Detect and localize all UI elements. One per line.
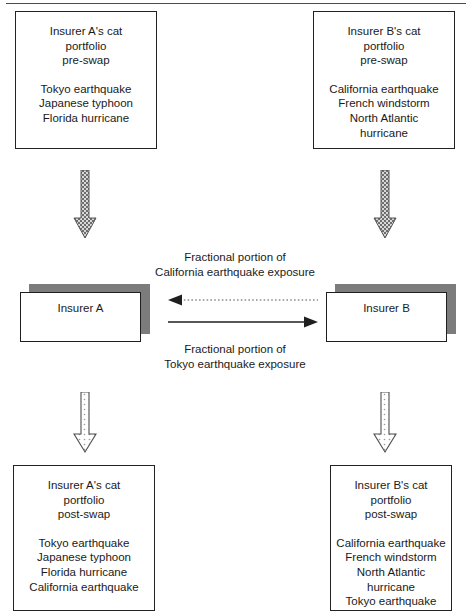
peril-item: California earthquake: [14, 580, 154, 595]
box-spacer: [16, 68, 156, 82]
box-spacer: [14, 522, 154, 536]
box-header-line: pre-swap: [314, 53, 454, 68]
arrow-california-exposure-to-a: [168, 293, 318, 307]
box-header-line: Insurer B's cat: [331, 478, 451, 493]
insurer-b-label: Insurer B: [326, 292, 447, 342]
peril-item: California earthquake: [331, 536, 451, 551]
box-header-line: pre-swap: [16, 53, 156, 68]
insurer-b-post-swap-box: Insurer B's cat portfolio post-swap Cali…: [330, 465, 452, 611]
box-spacer: [331, 522, 451, 536]
peril-item: Tokyo earthquake: [14, 536, 154, 551]
box-header-line: portfolio: [16, 39, 156, 54]
label-line: Tokyo earthquake exposure: [125, 357, 345, 372]
peril-item: Japanese typhoon: [14, 550, 154, 565]
peril-item: Tokyo earthquake: [331, 594, 451, 609]
arrow-tokyo-exposure-to-b: [168, 315, 318, 329]
arrow-insurer-b-to-post-swap: [372, 392, 398, 458]
peril-item: hurricane: [331, 580, 451, 595]
peril-item: Florida hurricane: [16, 111, 156, 126]
cat-swap-diagram: Insurer A's cat portfolio pre-swap Tokyo…: [0, 0, 469, 613]
label-tokyo-exposure: Fractional portion of Tokyo earthquake e…: [125, 342, 345, 371]
box-header-line: portfolio: [314, 39, 454, 54]
insurer-b-pre-swap-box: Insurer B's cat portfolio pre-swap Calif…: [313, 11, 455, 149]
peril-item: Tokyo earthquake: [16, 82, 156, 97]
box-header-line: post-swap: [331, 507, 451, 522]
peril-item: North Atlantic: [331, 565, 451, 580]
box-header-line: Insurer B's cat: [314, 24, 454, 39]
peril-item: French windstorm: [314, 96, 454, 111]
insurer-b-card: Insurer B: [326, 284, 456, 344]
peril-item: French windstorm: [331, 550, 451, 565]
peril-item: North Atlantic: [314, 111, 454, 126]
peril-item: California earthquake: [314, 82, 454, 97]
box-header-line: portfolio: [331, 493, 451, 508]
box-header-line: Insurer A's cat: [14, 478, 154, 493]
box-header-line: Insurer A's cat: [16, 24, 156, 39]
label-line: California earthquake exposure: [125, 265, 345, 280]
insurer-a-pre-swap-box: Insurer A's cat portfolio pre-swap Tokyo…: [15, 11, 157, 149]
insurer-a-card: Insurer A: [20, 284, 150, 344]
arrow-b-pre-to-insurer-b: [372, 170, 398, 244]
box-header-line: post-swap: [14, 507, 154, 522]
label-line: Fractional portion of: [125, 342, 345, 357]
top-divider-rule: [6, 3, 466, 4]
peril-item: Florida hurricane: [14, 565, 154, 580]
insurer-a-label: Insurer A: [20, 292, 141, 342]
arrow-a-pre-to-insurer-a: [72, 170, 98, 244]
label-california-exposure: Fractional portion of California earthqu…: [125, 250, 345, 279]
arrow-insurer-a-to-post-swap: [72, 392, 98, 458]
peril-item: Japanese typhoon: [16, 96, 156, 111]
box-spacer: [314, 68, 454, 82]
label-line: Fractional portion of: [125, 250, 345, 265]
insurer-a-post-swap-box: Insurer A's cat portfolio post-swap Toky…: [13, 465, 155, 611]
peril-item: hurricane: [314, 126, 454, 141]
box-header-line: portfolio: [14, 493, 154, 508]
